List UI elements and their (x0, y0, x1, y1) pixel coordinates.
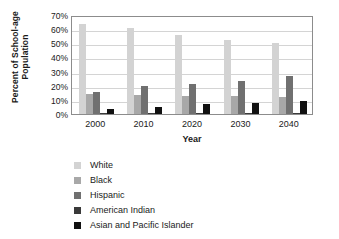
bar-group (169, 17, 217, 114)
y-axis-tick: 40% (38, 54, 68, 63)
bar (224, 40, 231, 114)
legend-item: Asian and Pacific Islander (74, 218, 304, 233)
legend-label: Hispanic (90, 190, 125, 201)
bar (182, 96, 189, 114)
legend-item: American Indian (74, 203, 304, 218)
y-axis-tick: 20% (38, 82, 68, 91)
bar (175, 35, 182, 114)
bar (86, 94, 93, 115)
bar (141, 86, 148, 114)
legend-label: Asian and Pacific Islander (90, 220, 194, 231)
y-axis-tick: 10% (38, 96, 68, 105)
bar (252, 103, 259, 114)
chart-figure: Percent of School-age Population 0%10%20… (0, 0, 339, 239)
legend-swatch-icon (74, 207, 81, 214)
y-axis-title-line-2: Population (20, 35, 31, 80)
x-axis-tick: 2040 (265, 118, 313, 130)
bar (127, 28, 134, 114)
legend-label: White (90, 160, 113, 171)
bar (134, 95, 141, 114)
legend-label: American Indian (90, 205, 155, 216)
y-axis-title-line-1: Percent of School-age (10, 11, 21, 103)
y-axis-tick: 50% (38, 40, 68, 49)
bar (93, 92, 100, 114)
legend-swatch-icon (74, 162, 81, 169)
legend-swatch-icon (74, 177, 81, 184)
bar (238, 81, 245, 114)
y-axis-tick-labels: 0%10%20%30%40%50%60%70% (38, 11, 68, 119)
bar (203, 104, 210, 114)
bar (107, 109, 114, 114)
x-axis-tick: 2010 (120, 118, 168, 130)
bar (293, 113, 300, 114)
y-axis-tick: 0% (38, 111, 68, 120)
legend-item: Black (74, 173, 304, 188)
bar (272, 43, 279, 114)
bars-layer (72, 17, 312, 114)
y-axis-tick: 70% (38, 12, 68, 21)
bar (100, 113, 107, 114)
x-axis-title: Year (71, 134, 313, 145)
y-axis-tick: 30% (38, 68, 68, 77)
bar (286, 76, 293, 114)
legend-item: Hispanic (74, 188, 304, 203)
bar (79, 24, 86, 115)
bar-group (266, 17, 314, 114)
bar (155, 107, 162, 114)
x-axis-tick-labels: 20002010202020302040 (71, 118, 313, 132)
x-axis-tick: 2020 (168, 118, 216, 130)
bar (279, 97, 286, 114)
x-axis-tick: 2030 (216, 118, 264, 130)
x-axis-tick: 2000 (71, 118, 119, 130)
bar-group (72, 17, 120, 114)
bar (231, 96, 238, 114)
bar (245, 113, 252, 114)
legend-item: White (74, 158, 304, 173)
bar-group (217, 17, 265, 114)
bar-group (120, 17, 168, 114)
y-axis-tick: 60% (38, 26, 68, 35)
bar (189, 84, 196, 114)
bar (300, 101, 307, 114)
legend-label: Black (90, 175, 112, 186)
chart-legend: WhiteBlackHispanicAmerican IndianAsian a… (74, 158, 304, 233)
bar (148, 113, 155, 114)
legend-swatch-icon (74, 222, 81, 229)
plot-area (71, 16, 313, 115)
bar (196, 113, 203, 114)
legend-swatch-icon (74, 192, 81, 199)
y-axis-title: Percent of School-age Population (5, 0, 35, 115)
